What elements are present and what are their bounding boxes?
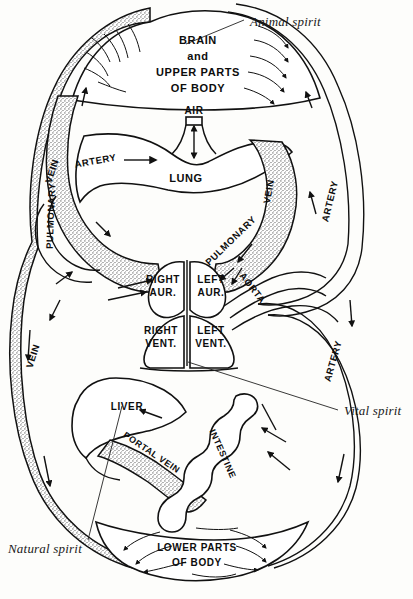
liver-label: LIVER [111,401,144,412]
left-aur-line1: LEFT [197,274,224,285]
artery-right-lower-label: ARTERY [322,339,344,383]
right-aur-line2: AUR. [150,287,177,298]
artery-right-upper-label: ARTERY [319,179,340,223]
galenic-circulation-figure: BRAIN and UPPER PARTS OF BODY AIR LUNG R… [0,0,413,599]
right-vent-line1: RIGHT [144,325,178,336]
animal-spirit-annotation: Animal spirit [249,14,321,29]
brain-label-line4: OF BODY [171,82,225,94]
air-label: AIR [184,105,203,116]
right-aur-line1: RIGHT [146,274,180,285]
brain-label-line2: and [187,50,208,62]
brain-label-line3: UPPER PARTS [156,66,240,78]
lower-body-line2: OF BODY [172,557,222,568]
lower-body-line1: LOWER PARTS [157,542,237,553]
vein-lower-left-label: VEIN [24,343,42,370]
vital-spirit-annotation: Vital spirit [344,403,402,418]
natural-spirit-annotation: Natural spirit [7,541,82,556]
pulmonary-vessels [35,96,296,293]
left-vent-line1: LEFT [197,325,224,336]
right-vent-line2: VENT. [145,338,176,349]
lung-label: LUNG [169,172,203,184]
diagram-canvas: BRAIN and UPPER PARTS OF BODY AIR LUNG R… [0,0,413,599]
left-vent-line2: VENT. [195,338,226,349]
pulmonary-left-label: PULMONARY [44,183,57,250]
left-aur-line2: AUR. [198,287,225,298]
vital-spirit-leader [188,362,338,410]
brain-label-line1: BRAIN [179,34,217,46]
